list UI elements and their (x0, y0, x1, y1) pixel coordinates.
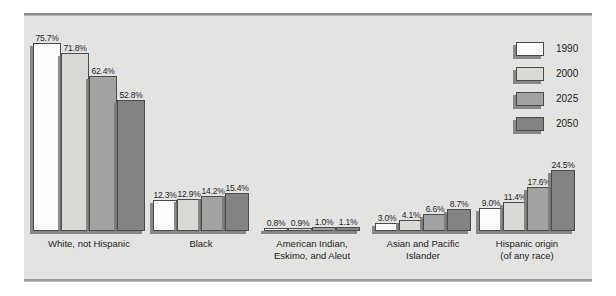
group-category-label: White, not Hispanic (48, 238, 130, 250)
legend-swatch (516, 117, 544, 131)
bar-value-label: 1.1% (339, 217, 358, 227)
legend-label: 2050 (556, 118, 578, 129)
legend-swatch (516, 92, 544, 106)
bar-column[interactable]: 12.9% (177, 41, 201, 231)
bar-group-bars: 0.8%0.9%1.0%1.1% (264, 41, 360, 231)
group-label-line1: White, not Hispanic (48, 238, 130, 250)
group-label-line1: Hispanic origin (496, 238, 558, 250)
legend-swatch (516, 67, 544, 81)
bar-value-label: 75.7% (35, 33, 58, 43)
bar[interactable]: 62.4% (89, 76, 117, 231)
bar-column[interactable]: 14.2% (201, 41, 225, 231)
bar-column[interactable]: 0.8% (264, 41, 288, 231)
bar[interactable]: 6.6% (423, 214, 447, 231)
bar-column[interactable]: 1.1% (336, 41, 360, 231)
bar-column[interactable]: 9.0% (479, 41, 503, 231)
bar[interactable]: 15.4% (225, 193, 249, 231)
bar[interactable]: 52.8% (117, 100, 145, 231)
bar-value-label: 4.1% (402, 210, 421, 220)
bar-value-label: 8.7% (450, 199, 469, 209)
bar-column[interactable]: 1.0% (312, 41, 336, 231)
bar[interactable]: 12.3% (153, 200, 177, 231)
bar-value-label: 52.8% (119, 90, 142, 100)
bar-column[interactable]: 12.3% (153, 41, 177, 231)
legend-swatch (516, 42, 544, 56)
bar-column[interactable]: 8.7% (447, 41, 471, 231)
bar-value-label: 6.6% (426, 204, 445, 214)
bar[interactable]: 0.9% (288, 228, 312, 231)
bar[interactable]: 1.0% (312, 227, 336, 231)
bar-value-label: 1.0% (315, 217, 334, 227)
group-label-line1: American Indian, (274, 238, 350, 250)
group-category-label: American Indian,Eskimo, and Aleut (274, 238, 350, 261)
bar-group-bars: 3.0%4.1%6.6%8.7% (375, 41, 471, 231)
chart-legend: 1990200020252050 (516, 38, 578, 138)
bar-group: 0.8%0.9%1.0%1.1%American Indian,Eskimo, … (264, 41, 360, 231)
legend-item[interactable]: 2000 (516, 63, 578, 84)
group-label-line2: (of any race) (496, 250, 558, 262)
legend-item[interactable]: 1990 (516, 38, 578, 59)
bar-column[interactable]: 71.8% (61, 41, 89, 231)
legend-item[interactable]: 2025 (516, 88, 578, 109)
bar-value-label: 0.9% (291, 218, 310, 228)
group-label-line1: Black (189, 238, 212, 250)
bar-value-label: 24.5% (551, 160, 574, 170)
bar-column[interactable]: 75.7% (33, 41, 61, 231)
bar[interactable]: 14.2% (201, 196, 225, 231)
bar-group-bars: 12.3%12.9%14.2%15.4% (153, 41, 249, 231)
bar[interactable]: 12.9% (177, 199, 201, 231)
bar-value-label: 9.0% (482, 198, 501, 208)
bar-group-bars: 75.7%71.8%62.4%52.8% (33, 41, 145, 231)
bar[interactable]: 9.0% (479, 208, 503, 231)
group-category-label: Black (189, 238, 212, 250)
bar[interactable]: 17.6% (527, 187, 551, 231)
bar-column[interactable]: 4.1% (399, 41, 423, 231)
bar-value-label: 15.4% (225, 183, 248, 193)
group-label-line2: Islander (387, 250, 460, 262)
bar[interactable]: 0.8% (264, 228, 288, 231)
bar[interactable]: 75.7% (33, 43, 61, 231)
group-label-line2: Eskimo, and Aleut (274, 250, 350, 262)
bar-group: 75.7%71.8%62.4%52.8%White, not Hispanic (33, 41, 145, 231)
bar-column[interactable]: 62.4% (89, 41, 117, 231)
legend-label: 2025 (556, 93, 578, 104)
bar[interactable]: 8.7% (447, 209, 471, 231)
bar-value-label: 62.4% (91, 66, 114, 76)
bar[interactable]: 4.1% (399, 220, 423, 231)
bar[interactable]: 3.0% (375, 223, 399, 231)
bar-value-label: 12.9% (177, 189, 200, 199)
bar-group: 12.3%12.9%14.2%15.4%Black (153, 41, 249, 231)
legend-item[interactable]: 2050 (516, 113, 578, 134)
bar[interactable]: 11.4% (503, 202, 527, 231)
bar-value-label: 0.8% (267, 218, 286, 228)
group-category-label: Hispanic origin(of any race) (496, 238, 558, 261)
bar-value-label: 14.2% (201, 186, 224, 196)
bar-value-label: 3.0% (378, 213, 397, 223)
bar-value-label: 17.6% (527, 177, 550, 187)
bar-column[interactable]: 6.6% (423, 41, 447, 231)
chart-page: 75.7%71.8%62.4%52.8%White, not Hispanic1… (0, 0, 616, 296)
bar-value-label: 12.3% (153, 190, 176, 200)
bar[interactable]: 1.1% (336, 227, 360, 231)
legend-label: 1990 (556, 43, 578, 54)
group-category-label: Asian and PacificIslander (387, 238, 460, 261)
bar-column[interactable]: 3.0% (375, 41, 399, 231)
bar-column[interactable]: 0.9% (288, 41, 312, 231)
bar[interactable]: 71.8% (61, 53, 89, 231)
bar[interactable]: 24.5% (551, 170, 575, 231)
bar-value-label: 71.8% (63, 43, 86, 53)
legend-label: 2000 (556, 68, 578, 79)
group-label-line1: Asian and Pacific (387, 238, 460, 250)
bar-value-label: 11.4% (504, 192, 526, 202)
bar-column[interactable]: 52.8% (117, 41, 145, 231)
bar-group: 3.0%4.1%6.6%8.7%Asian and PacificIslande… (375, 41, 471, 231)
bar-column[interactable]: 15.4% (225, 41, 249, 231)
